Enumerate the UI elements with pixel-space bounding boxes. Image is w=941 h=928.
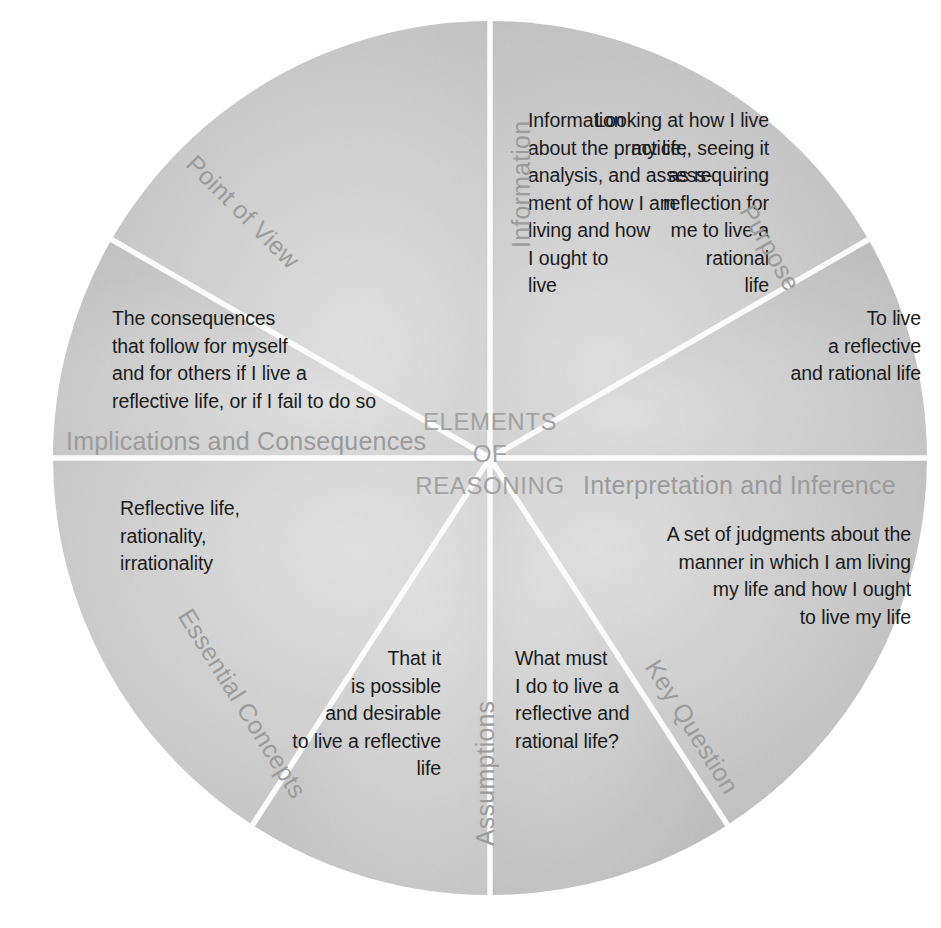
- elements-of-reasoning-wheel: ELEMENTS OF REASONING Looking at how I l…: [0, 0, 941, 928]
- segment-text-essential-concepts: Reflective life, rationality, irrational…: [120, 495, 450, 578]
- center-title: ELEMENTS OF REASONING: [400, 406, 580, 502]
- segment-label-assumptions: Assumptions: [472, 701, 499, 846]
- segment-text-information: Information about the practice, analysis…: [528, 107, 858, 300]
- segment-label-implications-and-consequences: Implications and Consequences: [66, 428, 426, 455]
- segment-label-information: Information: [508, 121, 535, 248]
- segment-text-interpretation-and-inference: A set of judgments about the manner in w…: [491, 521, 911, 631]
- segment-text-purpose: To live a reflective and rational life: [591, 305, 921, 388]
- segment-text-implications-and-consequences: The consequences that follow for myself …: [112, 305, 572, 415]
- segment-label-interpretation-and-inference: Interpretation and Inference: [583, 472, 896, 499]
